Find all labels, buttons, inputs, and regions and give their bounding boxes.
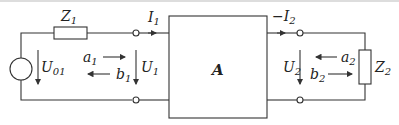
z2-label: Z2 [374, 59, 391, 77]
impedance-z1 [54, 27, 87, 39]
i1-label: I1 [147, 9, 160, 27]
port1-top-terminal [133, 30, 139, 36]
a2-label: a2 [341, 49, 356, 67]
port2-bottom-terminal [297, 97, 303, 103]
a1-label: a1 [83, 49, 98, 67]
impedance-z2 [359, 50, 371, 84]
u1-label: U1 [141, 59, 159, 77]
port1-bottom-terminal [133, 97, 139, 103]
u01-label: U01 [41, 59, 66, 77]
circuit-diagram: Z1 U01 I1 a1 b1 U1 A −I2 U2 a2 b2 Z2 [0, 0, 399, 125]
b1-label: b1 [116, 66, 131, 84]
voltage-source-icon [10, 58, 32, 80]
network-a-label: A [210, 61, 224, 79]
u2-label: U2 [283, 59, 301, 77]
port2-top-terminal [297, 30, 303, 36]
z1-label: Z1 [60, 8, 77, 26]
i2-label: −I2 [272, 8, 296, 26]
b2-label: b2 [310, 66, 325, 84]
